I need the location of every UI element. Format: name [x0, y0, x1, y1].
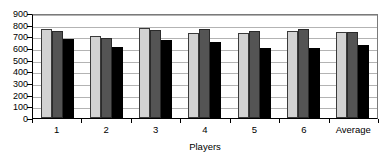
x-tickmark [329, 119, 330, 123]
bar-group [336, 15, 369, 118]
bar [199, 29, 210, 118]
y-tick-label: 600 [13, 45, 28, 54]
y-tickmark [27, 49, 32, 50]
y-tickmark [27, 107, 32, 108]
y-tickmark [27, 26, 32, 27]
bar [188, 33, 199, 118]
y-tick-label: 700 [13, 33, 28, 42]
x-axis-title: Players [32, 141, 378, 152]
x-tickmark [32, 119, 33, 123]
plot-area [32, 14, 378, 119]
bar [347, 32, 358, 118]
bar-group [238, 15, 271, 118]
bar [150, 30, 161, 118]
bar [210, 42, 221, 118]
bar-chart: 9008007006005004003002001000 123456Avera… [0, 0, 381, 164]
y-tick-label: 900 [13, 10, 28, 19]
y-tick-label: 400 [13, 68, 28, 77]
y-tick-label: 100 [13, 103, 28, 112]
bar [112, 47, 123, 118]
bar [52, 31, 63, 118]
bar [260, 48, 271, 118]
x-tick-label: 6 [281, 124, 327, 135]
y-tickmark [27, 14, 32, 15]
bar-groups [33, 15, 377, 118]
x-tick-label: 1 [34, 124, 80, 135]
bar [101, 38, 112, 119]
y-tickmark [27, 61, 32, 62]
bar [238, 33, 249, 118]
y-tickmark [27, 84, 32, 85]
bar [139, 28, 150, 118]
y-tick-label: 200 [13, 91, 28, 100]
y-tick-label: 500 [13, 56, 28, 65]
x-axis-tick-labels: 123456Average [32, 124, 378, 138]
y-axis-tick-labels: 9008007006005004003002001000 [0, 14, 30, 119]
bar [63, 39, 74, 118]
x-tickmark [279, 119, 280, 123]
bar [358, 45, 369, 119]
x-tick-label: Average [330, 124, 376, 135]
bar [298, 29, 309, 118]
bar-group [41, 15, 74, 118]
x-tickmark [81, 119, 82, 123]
bar [90, 36, 101, 118]
x-tickmark [378, 119, 379, 123]
y-tickmark [27, 72, 32, 73]
x-tick-label: 4 [182, 124, 228, 135]
x-tick-label: 5 [231, 124, 277, 135]
x-tickmark [180, 119, 181, 123]
bar-group [90, 15, 123, 118]
y-tick-label: 300 [13, 80, 28, 89]
bar [249, 31, 260, 118]
bar [336, 32, 347, 118]
bar-group [139, 15, 172, 118]
x-tick-label: 3 [133, 124, 179, 135]
x-tickmark [230, 119, 231, 123]
bar [161, 40, 172, 118]
bar-group [188, 15, 221, 118]
x-tickmark [131, 119, 132, 123]
y-tick-label: 800 [13, 21, 28, 30]
bar [309, 48, 320, 118]
y-tickmark [27, 37, 32, 38]
bar-group [287, 15, 320, 118]
y-tickmark [27, 96, 32, 97]
bar [41, 29, 52, 118]
bar [287, 31, 298, 118]
x-tick-label: 2 [83, 124, 129, 135]
